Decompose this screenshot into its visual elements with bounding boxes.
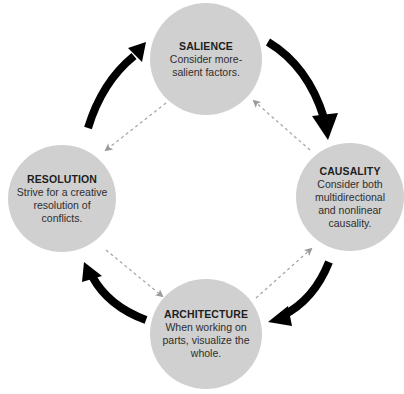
dashed-arrow-salience-to-resolution xyxy=(106,103,166,150)
node-resolution: RESOLUTION Strive for a creative resolut… xyxy=(8,145,116,252)
solid-arrow-architecture-to-resolution xyxy=(82,262,146,320)
node-salience: SALIENCE Consider more-salient factors. xyxy=(150,3,262,115)
dashed-arrow-resolution-to-architecture xyxy=(106,250,162,296)
node-architecture: ARCHITECTURE When working on parts, visu… xyxy=(150,279,262,389)
node-title: SALIENCE xyxy=(179,40,233,53)
node-causality: CAUSALITY Consider both multidirectional… xyxy=(296,143,404,251)
solid-arrow-salience-to-causality xyxy=(268,42,338,140)
node-description: Consider more-salient factors. xyxy=(158,53,254,79)
solid-arrow-causality-to-architecture xyxy=(268,262,329,326)
node-title: CAUSALITY xyxy=(320,165,381,178)
dashed-arrow-architecture-to-causality xyxy=(256,249,311,298)
node-title: RESOLUTION xyxy=(27,173,97,186)
node-description: Consider both multidirectional and nonli… xyxy=(310,178,390,230)
node-description: When working on parts, visualize the who… xyxy=(162,321,250,360)
node-title: ARCHITECTURE xyxy=(164,308,248,321)
node-description: Strive for a creative resolution of conf… xyxy=(12,186,112,225)
dashed-arrow-causality-to-salience xyxy=(254,101,310,150)
solid-arrow-resolution-to-salience xyxy=(88,42,146,128)
